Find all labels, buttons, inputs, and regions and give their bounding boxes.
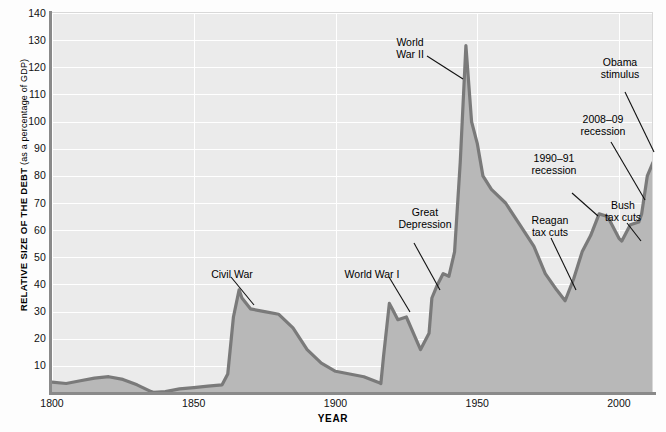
x-tick-label-1800: 1800 (22, 398, 82, 409)
x-tick-label-1950: 1950 (447, 398, 507, 409)
x-tick-label-1850: 1850 (164, 398, 224, 409)
y-axis-title-main: RELATIVE SIZE OF THE DEBT (18, 168, 29, 312)
annotation-bush-tax-cuts: Bush tax cuts (592, 199, 654, 224)
x-tick-label-2000: 2000 (589, 398, 649, 409)
plot-area (52, 13, 653, 393)
y-tick-label-140: 140 (0, 8, 46, 19)
annotation-reagan-tax-cuts: Reagan tax cuts (512, 214, 588, 239)
y-tick-label-10: 10 (0, 360, 46, 371)
y-axis-title-sub: (as a percentage of GDP) (19, 59, 29, 168)
annotation-obama-stimulus: Obama stimulus (578, 56, 662, 81)
y-axis-rule (49, 11, 52, 395)
debt-area-series (52, 13, 653, 393)
annotation-1990-91-recession: 1990–91 recession (511, 152, 597, 177)
annotation-world-war-i: World War I (322, 268, 422, 280)
chart-figure: 102030405060708090100110120130140 180018… (0, 0, 666, 432)
y-tick-label-20: 20 (0, 333, 46, 344)
annotation-great-depression: Great Depression (381, 206, 469, 231)
x-axis-rule (49, 392, 656, 395)
y-axis-title: RELATIVE SIZE OF THE DEBT (as a percenta… (13, 55, 31, 315)
y-tick-label-130: 130 (0, 35, 46, 46)
x-tick-label-1900: 1900 (305, 398, 365, 409)
annotation-civil-war: Civil War (189, 268, 275, 280)
x-axis-title: YEAR (0, 413, 666, 424)
plot-top-edge (52, 12, 653, 13)
annotation-2008-09-recession: 2008–09 recession (561, 113, 645, 138)
annotation-world-war-ii: World War II (372, 36, 448, 61)
